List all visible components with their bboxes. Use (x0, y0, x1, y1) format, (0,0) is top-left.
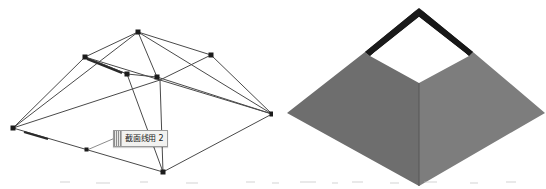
vertex-marker (161, 170, 166, 175)
figure-root: 截面线用 2 (0, 0, 546, 189)
vertex-marker (155, 75, 160, 80)
edge-slope-left (13, 57, 85, 128)
edge-outer-top-right (138, 32, 272, 114)
solid-canvas (273, 0, 546, 189)
edge-inner-left-top (85, 32, 138, 57)
vertex-marker (125, 72, 130, 77)
wireframe-highlight-edges (24, 59, 122, 139)
wireframe-canvas (0, 0, 273, 189)
wireframe-edges (13, 32, 272, 172)
vertex-marker (136, 30, 141, 35)
section-line-callout[interactable]: 截面线用 2 (113, 130, 168, 147)
shaded-solid-model-view (273, 0, 546, 189)
edge-ridge-to-apex (138, 32, 157, 77)
edge-inner-top-right (138, 32, 211, 55)
edge-outer-right-bottom (163, 114, 272, 172)
vertex-marker (209, 53, 214, 58)
callout-leader (87, 138, 115, 150)
face-left-slope (287, 52, 419, 186)
drag-grip[interactable] (114, 131, 122, 146)
edge-slope-bottom (160, 80, 163, 172)
edge-inner-right-bottom (160, 55, 211, 80)
leader-line (87, 138, 115, 150)
vertex-marker (11, 126, 16, 131)
vertex-marker (83, 55, 88, 60)
edge-ridge-right-tie (157, 77, 272, 114)
edge-ridge-to-bottom (127, 74, 163, 172)
highlight-segment-upper (87, 59, 122, 73)
highlight-segment-lower (24, 132, 48, 139)
wireframe-model-view (0, 0, 273, 189)
edge-outer-left-top (13, 32, 138, 128)
vertex-marker (85, 148, 89, 152)
callout-label-text: 截面线用 2 (122, 131, 167, 146)
